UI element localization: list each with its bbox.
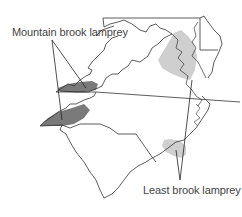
least-range-md-va [158,30,197,80]
nc-sc-border [40,124,156,162]
least-range-nc [162,139,186,158]
delmarva-border [200,16,222,78]
leader-lbl-2 [180,80,192,180]
mountain-range-nc [40,104,90,126]
least-brook-lamprey-label: Least brook lamprey [143,184,241,196]
sc-border [60,125,152,198]
mountain-brook-lamprey-label: Mountain brook lamprey [12,26,128,38]
